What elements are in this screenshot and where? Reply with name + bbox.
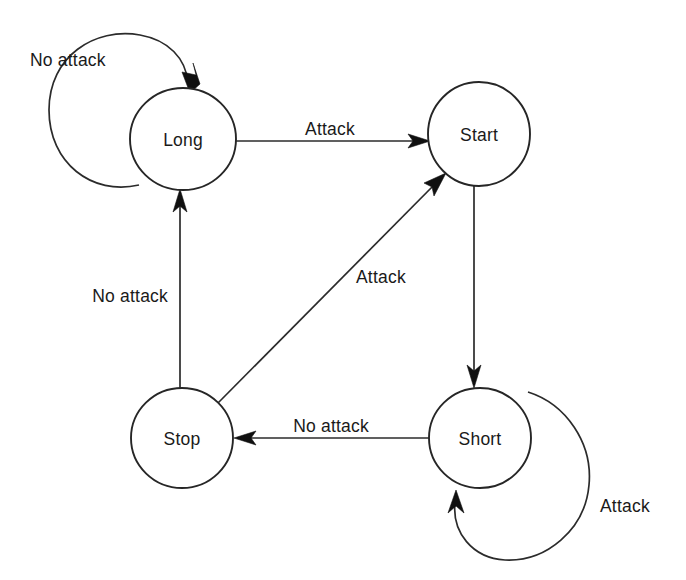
edge-start-to-short[interactable] [467,186,481,388]
edge-label-long-self: No attack [30,50,106,70]
edge-long-to-start[interactable]: Attack [236,119,430,148]
node-short-label: Short [459,429,502,449]
edge-label-stop-to-long: No attack [92,286,168,306]
state-diagram: No attack Attack No attack Attack [0,0,686,580]
state-diagram-canvas: No attack Attack No attack Attack [0,0,686,580]
node-stop-label: Stop [164,429,201,449]
node-long-label: Long [163,130,203,150]
edge-label-stop-to-start: Attack [356,267,406,287]
edge-label-short-to-stop: No attack [293,416,369,436]
node-start[interactable]: Start [428,82,530,186]
edge-stop-to-start[interactable]: Attack [218,173,446,403]
stop-to-start-line [218,182,437,403]
node-long[interactable]: Long [130,88,236,190]
edge-stop-to-long[interactable]: No attack [92,189,187,388]
node-start-label: Start [460,125,498,145]
edge-label-short-self: Attack [600,496,650,516]
short-self-loop-arrowhead [448,490,464,513]
node-short[interactable]: Short [429,388,531,488]
node-stop[interactable]: Stop [131,388,233,488]
edge-short-to-stop[interactable]: No attack [234,416,429,445]
edge-label-long-to-start: Attack [305,119,355,139]
